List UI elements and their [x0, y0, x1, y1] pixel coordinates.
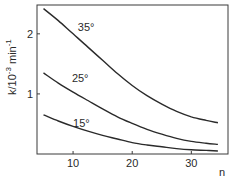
x-axis-label: n [219, 166, 225, 178]
series-label: 35° [78, 21, 95, 33]
series-line [44, 9, 218, 123]
x-tick-label: 10 [67, 157, 79, 169]
y-axis-ticks: 12 [27, 28, 40, 100]
y-tick-label: 2 [27, 28, 33, 40]
y-tick-label: 1 [27, 88, 33, 100]
series-labels: 35°25°15° [72, 21, 95, 129]
chart: 102030 12 35°25°15° n k/10-3 min-1 [0, 0, 231, 181]
series-lines [44, 9, 218, 151]
y-axis-label: k/10-3 min-1 [4, 39, 18, 95]
series-label: 25° [72, 72, 89, 84]
series-line [44, 115, 218, 151]
series-label: 15° [73, 117, 90, 129]
y-axis-label-text: k/10-3 min-1 [4, 39, 18, 95]
x-tick-label: 20 [126, 157, 138, 169]
x-tick-label: 30 [185, 157, 197, 169]
